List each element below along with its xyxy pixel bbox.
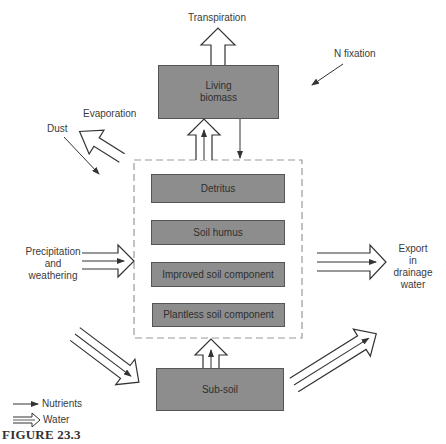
improved-soil-box: Improved soil component <box>151 262 285 287</box>
from-subsoil-arrow-icon <box>286 320 385 399</box>
figure-caption: FIGURE 23.3 <box>2 427 81 443</box>
precipitation-arrow-icon <box>82 245 134 277</box>
evaporation-label: Evaporation <box>83 108 136 120</box>
sub-soil-box: Sub-soil <box>156 368 284 411</box>
soil-humus-label: Soil humus <box>193 227 242 239</box>
precipitation-label: Precipitation and weathering <box>22 246 84 282</box>
plantless-soil-box: Plantless soil component <box>152 303 285 327</box>
legend-water-label: Water <box>43 414 69 426</box>
export-label: Export in drainage water <box>388 243 438 291</box>
n-fixation-arrow-icon <box>312 64 343 85</box>
detritus-box: Detritus <box>151 174 285 203</box>
plantless-soil-label: Plantless soil component <box>163 309 274 321</box>
dust-label: Dust <box>47 123 68 135</box>
transpiration-arrow-icon <box>201 28 235 65</box>
soil-humus-box: Soil humus <box>151 220 285 245</box>
sub-soil-label: Sub-soil <box>202 384 238 396</box>
export-arrow-icon <box>317 245 386 279</box>
transpiration-label: Transpiration <box>188 12 246 24</box>
living-biomass-label: Living biomass <box>189 80 249 104</box>
n-fixation-label: N fixation <box>334 48 376 60</box>
living-biomass-box: Living biomass <box>158 65 279 119</box>
legend-nutrients-label: Nutrients <box>42 398 82 410</box>
to-subsoil-arrow-icon <box>65 321 148 395</box>
improved-soil-label: Improved soil component <box>162 269 274 281</box>
figure-23-3-diagram: Living biomass Detritus Soil humus Impro… <box>0 0 446 444</box>
evaporation-arrow-icon <box>72 120 129 170</box>
detritus-label: Detritus <box>201 183 235 195</box>
